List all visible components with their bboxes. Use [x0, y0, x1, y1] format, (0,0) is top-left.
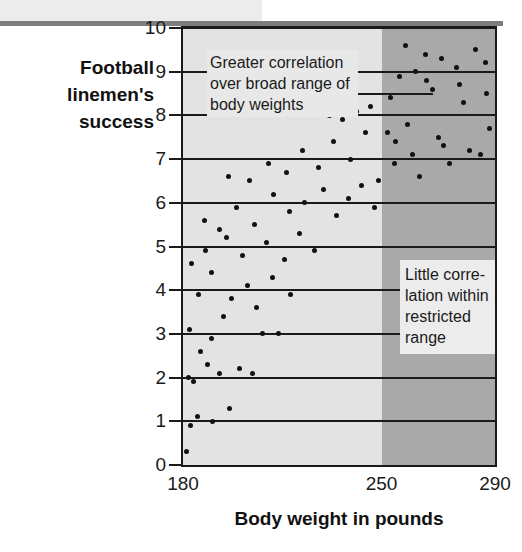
data-point — [186, 375, 191, 380]
data-point — [260, 331, 265, 336]
data-point — [392, 161, 397, 166]
y-tick-label: 3 — [126, 324, 166, 343]
data-point — [282, 257, 287, 262]
data-point — [376, 178, 381, 183]
data-point — [423, 52, 428, 57]
data-point — [346, 196, 351, 201]
data-point — [288, 292, 293, 297]
data-point — [254, 305, 259, 310]
data-point — [196, 292, 201, 297]
data-point — [205, 362, 210, 367]
data-point — [359, 183, 364, 188]
data-point — [234, 205, 239, 210]
gridline — [183, 246, 495, 248]
data-point — [189, 261, 194, 266]
x-tick-label: 250 — [352, 474, 412, 493]
data-point — [271, 192, 276, 197]
data-point — [439, 56, 444, 61]
data-point — [331, 139, 336, 144]
gridline — [183, 158, 495, 160]
data-point — [284, 170, 289, 175]
data-point — [209, 270, 214, 275]
data-point — [195, 414, 200, 419]
y-tick-label: 7 — [126, 149, 166, 168]
data-point — [334, 213, 339, 218]
data-point — [221, 314, 226, 319]
data-point — [191, 379, 196, 384]
y-tick-label: 6 — [126, 193, 166, 212]
y-tick-label: 2 — [126, 368, 166, 387]
y-tick-label: 1 — [126, 411, 166, 430]
data-point — [348, 157, 353, 162]
data-point — [226, 174, 231, 179]
data-point — [287, 209, 292, 214]
data-point — [202, 218, 207, 223]
y-tick-label: 0 — [126, 455, 166, 474]
data-point — [405, 122, 410, 127]
data-point — [368, 104, 373, 109]
x-tick-label: 290 — [465, 474, 522, 493]
x-tick-label: 180 — [153, 474, 213, 493]
gridline — [183, 377, 495, 379]
data-point — [484, 91, 489, 96]
annotation-restricted-range: Little corre-lation within restricted ra… — [400, 260, 497, 354]
data-point — [247, 178, 252, 183]
data-point — [316, 165, 321, 170]
data-point — [237, 366, 242, 371]
data-point — [276, 331, 281, 336]
data-point — [297, 231, 302, 236]
data-point — [487, 126, 492, 131]
data-point — [203, 248, 208, 253]
data-point — [264, 240, 269, 245]
data-point — [227, 406, 232, 411]
data-point — [229, 296, 234, 301]
data-point — [430, 87, 435, 92]
data-point — [252, 222, 257, 227]
y-tick-label: 9 — [126, 62, 166, 81]
y-tick-label: 5 — [126, 237, 166, 256]
data-point — [340, 117, 345, 122]
data-point — [321, 187, 326, 192]
leader-line — [285, 27, 432, 29]
data-point — [372, 205, 377, 210]
data-point — [184, 449, 189, 454]
y-tick-label: 10 — [126, 18, 166, 37]
data-point — [270, 275, 275, 280]
data-point — [300, 148, 305, 153]
y-tick-label: 8 — [126, 105, 166, 124]
data-point — [266, 161, 271, 166]
x-axis-title: Body weight in pounds — [181, 508, 497, 530]
data-point — [224, 235, 229, 240]
annotation-broad-range: Greater correlation over broad range of … — [207, 50, 358, 117]
y-tick-label: 4 — [126, 280, 166, 299]
gridline — [183, 420, 495, 422]
leader-line — [348, 93, 433, 95]
data-point — [312, 248, 317, 253]
data-point — [198, 349, 203, 354]
data-point — [245, 283, 250, 288]
data-point — [240, 253, 245, 258]
data-point — [187, 327, 192, 332]
data-point — [217, 227, 222, 232]
data-point — [209, 336, 214, 341]
data-point — [250, 371, 255, 376]
data-point — [217, 371, 222, 376]
gridline — [183, 202, 495, 204]
data-point — [188, 423, 193, 428]
data-point — [302, 200, 307, 205]
data-point — [467, 148, 472, 153]
data-point — [210, 419, 215, 424]
scatter-plot-area: Greater correlation over broad range of … — [181, 26, 497, 467]
data-point — [436, 135, 441, 140]
data-point — [363, 130, 368, 135]
